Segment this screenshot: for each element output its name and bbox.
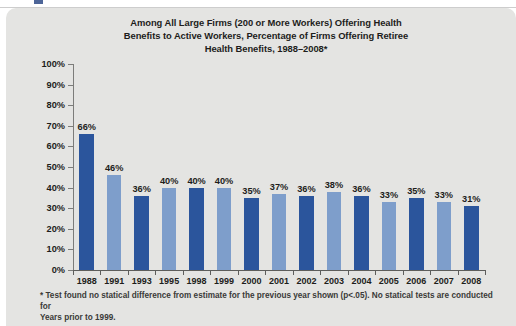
y-axis-tick [68,146,73,147]
y-axis-label: 50% [47,162,65,172]
bar [189,188,204,270]
bar [79,134,94,270]
bar-value-label: 35% [242,186,260,196]
y-axis-label: 80% [47,100,65,110]
bar [134,196,149,270]
bar-value-label: 31% [462,194,480,204]
x-axis-label: 2006 [406,276,426,286]
x-axis-tick [210,270,211,275]
x-axis-tick [403,270,404,275]
bar-value-label: 40% [187,176,205,186]
bar [272,194,287,270]
y-axis-tick [68,64,73,65]
x-axis-label: 1993 [132,276,152,286]
x-axis-tick [485,270,486,275]
x-axis-label: 1998 [187,276,207,286]
x-axis-label: 1999 [214,276,234,286]
bar-value-label: 40% [215,176,233,186]
bar-value-label: 36% [132,184,150,194]
y-axis-line [73,64,74,270]
y-axis-label: 20% [47,224,65,234]
bar-value-label: 40% [160,176,178,186]
y-axis-label: 100% [42,59,66,69]
x-axis-tick [183,270,184,275]
x-axis-tick [128,270,129,275]
chart-page: Among All Large Firms (200 or More Worke… [0,0,516,326]
y-axis-label: 70% [47,121,65,131]
bar [244,198,259,270]
y-axis-tick [68,208,73,209]
bar-value-label: 38% [325,180,343,190]
x-axis-tick [348,270,349,275]
footnote-line-2: Years prior to 1999. [40,312,500,323]
x-axis-tick [155,270,156,275]
x-axis-line [73,270,485,271]
x-axis-tick [320,270,321,275]
chart-card: Among All Large Firms (200 or More Worke… [6,8,516,326]
x-axis-tick [458,270,459,275]
bar [162,188,177,270]
x-axis-tick [430,270,431,275]
chart-title-line-3: Health Benefits, 1988–2008* [66,42,466,55]
bar [409,198,424,270]
y-axis-label: 0% [52,265,65,275]
chart-title-line-1: Among All Large Firms (200 or More Worke… [66,16,466,29]
x-axis-tick [293,270,294,275]
x-axis-label: 2002 [296,276,316,286]
y-axis-label: 60% [47,141,65,151]
y-axis-label: 10% [47,244,65,254]
x-axis-label: 2007 [434,276,454,286]
chart-footnote: * Test found no statical difference from… [40,290,500,323]
y-axis-tick [68,167,73,168]
y-axis-label: 40% [47,183,65,193]
y-axis-tick [68,188,73,189]
x-axis-label: 1988 [77,276,97,286]
x-axis-tick [238,270,239,275]
bar-value-label: 66% [78,122,96,132]
x-axis-label: 2005 [379,276,399,286]
y-axis-label: 30% [47,203,65,213]
x-axis-label: 2000 [242,276,262,286]
y-axis-tick [68,126,73,127]
x-axis-label: 1991 [104,276,124,286]
x-axis-tick [100,270,101,275]
x-axis-label: 2008 [461,276,481,286]
x-axis-label: 2001 [269,276,289,286]
footnote-line-1: * Test found no statical difference from… [40,290,500,312]
page-top-sliver [0,0,516,8]
bar [354,196,369,270]
y-axis-tick [68,249,73,250]
bar [464,206,479,270]
bar-value-label: 33% [435,190,453,200]
bar-value-label: 37% [270,182,288,192]
x-axis-tick [265,270,266,275]
chart-title: Among All Large Firms (200 or More Worke… [66,16,466,56]
bar [217,188,232,270]
bar-value-label: 36% [297,184,315,194]
bar [107,175,122,270]
chart-title-line-2: Benefits to Active Workers, Percentage o… [66,29,466,42]
bar-value-label: 35% [407,186,425,196]
x-axis-label: 2003 [324,276,344,286]
y-axis-tick [68,85,73,86]
x-axis-label: 2004 [351,276,371,286]
y-axis-label: 90% [47,80,65,90]
y-axis-tick [68,105,73,106]
bar [437,202,452,270]
x-axis-label: 1995 [159,276,179,286]
x-axis-tick [375,270,376,275]
bar [382,202,397,270]
bar-value-label: 36% [352,184,370,194]
y-axis-tick [68,229,73,230]
bar-value-label: 46% [105,163,123,173]
plot-area: 0%10%20%30%40%50%60%70%80%90%100% 66%46%… [73,64,485,270]
cropped-logo-mark-icon [34,0,43,4]
bar [327,192,342,270]
bar [299,196,314,270]
x-axis-tick [73,270,74,275]
bar-value-label: 33% [380,190,398,200]
